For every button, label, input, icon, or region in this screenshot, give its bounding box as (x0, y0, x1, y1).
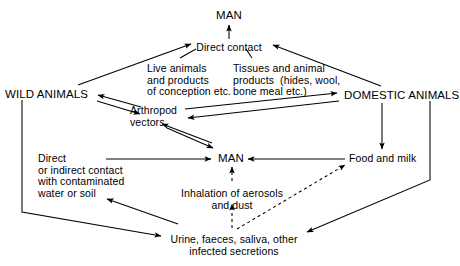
node-water-or-soil-contact: Direct or indirect contact with contamin… (38, 153, 124, 199)
edge-domestic-animals-to-arthropod (188, 101, 339, 118)
node-arthropod-vectors: Arthropod vectors (130, 105, 177, 128)
node-tissues-and-animal-products: Tissues and animal products (hides, wool… (233, 63, 340, 98)
edge-arthropod-to-man (167, 128, 213, 148)
node-man-center: MAN (218, 153, 244, 165)
edge-domestic-animals-to-secretions (307, 101, 430, 232)
node-wild-animals: WILD ANIMALS (5, 89, 88, 101)
edge-secretions-to-water-or-soil (107, 199, 178, 224)
node-man-top: MAN (216, 10, 242, 22)
node-live-animals: Live animals and products of conception … (147, 63, 231, 98)
node-infected-secretions: Urine, faeces, saliva, other infected se… (170, 234, 297, 257)
node-inhalation-of-aerosols: Inhalation of aerosols and dust (181, 188, 283, 211)
diagram-edges (0, 0, 460, 266)
edge-live-animals-leader (180, 49, 196, 58)
node-direct-contact: Direct contact (196, 42, 262, 54)
node-domestic-animals: DOMESTIC ANIMALS (344, 90, 459, 102)
node-food-and-milk: Food and milk (349, 153, 416, 165)
zoonoses-transmission-diagram: MAN Direct contact Live animals and prod… (0, 0, 460, 266)
